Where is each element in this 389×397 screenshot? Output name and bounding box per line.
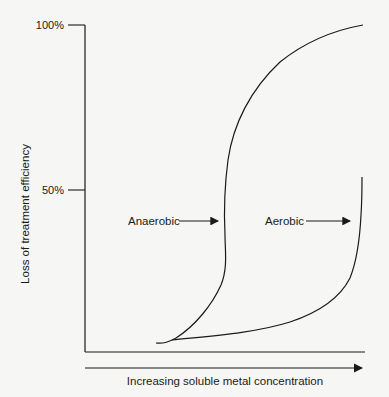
x-axis-label: Increasing soluble metal concentration (127, 375, 323, 387)
chart-canvas: 100% 50% Loss of treatment efficiency In… (0, 0, 389, 397)
tick-label-100: 100% (36, 19, 64, 31)
anaerobic-curve (156, 25, 363, 343)
aerobic-curve (172, 177, 362, 340)
aerobic-label: Aerobic (265, 215, 304, 227)
y-axis-label: Loss of treatment efficiency (19, 144, 31, 284)
anaerobic-label: Anaerobic (128, 215, 180, 227)
tick-label-50: 50% (42, 184, 64, 196)
